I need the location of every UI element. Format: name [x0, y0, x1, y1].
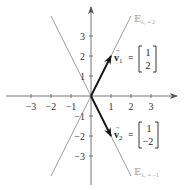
matrix-entry: 1	[146, 47, 151, 58]
y-tick-label: −2	[74, 131, 85, 142]
svg-text:𝔼λ₂ = −1: 𝔼λ₂ = −1	[134, 167, 159, 178]
x-tick-label: 3	[149, 101, 154, 112]
vector-v1-label: v1 → = 1 2	[114, 46, 156, 72]
matrix-entry: −2	[143, 136, 154, 147]
x-tick-label: 1	[109, 101, 114, 112]
svg-text:=: =	[128, 129, 134, 140]
vector-v1-arrow	[91, 56, 111, 96]
matrix-right-bracket	[155, 122, 158, 148]
x-tick-label: 2	[129, 101, 134, 112]
matrix-left-bracket	[139, 46, 142, 72]
x-tick-label: −3	[26, 101, 37, 112]
matrix-entry: 1	[147, 123, 152, 134]
y-tick-label: −3	[74, 151, 85, 162]
svg-text:𝔼λ₁ = 2: 𝔼λ₁ = 2	[134, 14, 155, 25]
matrix-left-bracket	[139, 122, 142, 148]
vector-arrow-accent: →	[115, 124, 121, 130]
vector-v2-label: v2 → = 1 −2	[114, 122, 158, 148]
eigenvalue-subscript: λ₁ = 2	[141, 19, 155, 25]
y-tick-label: −1	[74, 111, 85, 122]
eigenline-label-lambda1: 𝔼λ₁ = 2	[134, 14, 155, 25]
y-tick-label: 1	[80, 71, 85, 82]
y-tick-label: 2	[80, 51, 85, 62]
vector-subscript: 1	[119, 57, 123, 65]
x-tick-label: −2	[46, 101, 57, 112]
eigenvector-diagram: −3 −2 −1 1 2 3 3 2 1 −1 −2 −3 𝔼λ₁ = 2 𝔼λ…	[0, 0, 186, 190]
vector-subscript: 2	[119, 134, 123, 142]
svg-text:=: =	[128, 52, 134, 63]
eigenline-label-lambda2: 𝔼λ₂ = −1	[134, 167, 159, 178]
matrix-right-bracket	[153, 46, 156, 72]
y-tick-label: 3	[80, 31, 85, 42]
matrix-entry: 2	[146, 60, 151, 71]
vector-arrow-accent: →	[115, 47, 121, 53]
svg-text:v2: v2	[114, 129, 123, 142]
eigenvalue-subscript: λ₂ = −1	[141, 172, 159, 178]
svg-text:v1: v1	[114, 52, 123, 65]
